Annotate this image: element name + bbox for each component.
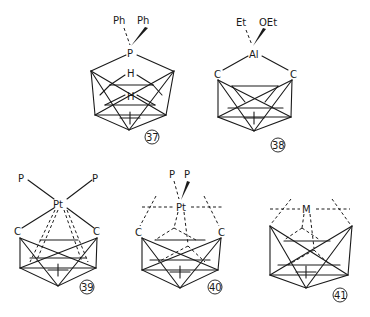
center-atom-p: P xyxy=(127,48,133,59)
compound-label-41: 41 xyxy=(334,290,347,301)
cage-atom-c-left: C xyxy=(135,227,142,238)
ligand-p-left: P xyxy=(169,169,175,180)
structure-38: Et OEt Al C C 38 xyxy=(214,17,297,152)
cage-atom-c-left: C xyxy=(214,69,221,80)
structure-37: Ph Ph P H H 37 xyxy=(91,15,174,144)
ligand-ph-right: Ph xyxy=(137,15,149,26)
center-atom-pt: Pt xyxy=(53,199,63,210)
ligand-et: Et xyxy=(236,17,246,28)
ligand-ph-left: Ph xyxy=(113,15,125,26)
structure-40: P P Pt C C 40 xyxy=(135,169,225,294)
cage-atom-h-top: H xyxy=(127,68,135,79)
compound-label-39: 39 xyxy=(81,282,94,293)
ligand-p-right: P xyxy=(184,169,190,180)
cage-atom-c-right: C xyxy=(218,227,225,238)
ligand-oet: OEt xyxy=(259,17,277,28)
structure-41: M 41 xyxy=(270,199,352,302)
structure-39: P P Pt C C 39 xyxy=(14,173,100,294)
ligand-p-left: P xyxy=(18,173,24,184)
cage-atom-c-left: C xyxy=(14,226,21,237)
center-atom-pt: Pt xyxy=(176,202,186,213)
compound-label-38: 38 xyxy=(272,140,285,151)
center-atom-al: Al xyxy=(249,49,259,60)
ligand-p-right: P xyxy=(92,173,98,184)
cage-atom-c-right: C xyxy=(290,69,297,80)
center-atom-m: M xyxy=(302,204,311,215)
compound-label-40: 40 xyxy=(209,282,222,293)
compound-label-37: 37 xyxy=(146,132,159,143)
cage-atom-c-right: C xyxy=(93,226,100,237)
carborane-structures-figure: Ph Ph P H H 37 Et OEt Al xyxy=(0,0,370,317)
